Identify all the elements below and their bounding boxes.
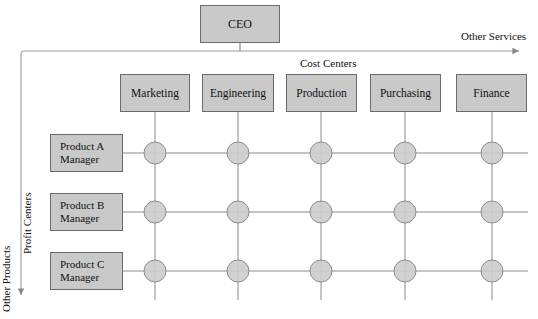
- matrix-organization-diagram: CEO Other Services Cost Centers Profit C…: [0, 0, 538, 319]
- matrix-node: [227, 260, 249, 282]
- node-label: Engineering: [210, 86, 266, 100]
- node-label: Finance: [473, 86, 509, 100]
- node-cost-center-engineering[interactable]: Engineering: [202, 74, 274, 112]
- node-label-line2: Manager: [60, 212, 104, 225]
- matrix-node: [310, 142, 332, 164]
- matrix-node: [481, 260, 503, 282]
- node-label: Marketing: [131, 86, 179, 100]
- matrix-node: [227, 201, 249, 223]
- matrix-node: [394, 142, 416, 164]
- node-label-group: Product B Manager: [60, 199, 104, 226]
- matrix-node: [227, 142, 249, 164]
- other-services-label: Other Services: [461, 30, 526, 42]
- node-profit-center-product-b[interactable]: Product B Manager: [50, 193, 123, 231]
- node-profit-center-product-c[interactable]: Product C Manager: [50, 252, 123, 290]
- node-label-line1: Product B: [60, 199, 104, 212]
- other-products-label: Other Products: [0, 246, 12, 312]
- cost-centers-header: Cost Centers: [300, 57, 357, 69]
- node-cost-center-production[interactable]: Production: [286, 74, 357, 112]
- node-label-line1: Product A: [60, 140, 104, 153]
- other-products-rail: [21, 51, 24, 295]
- node-label: Production: [296, 86, 346, 100]
- matrix-node: [144, 260, 166, 282]
- matrix-node: [481, 142, 503, 164]
- matrix-node: [310, 201, 332, 223]
- matrix-node: [394, 201, 416, 223]
- node-cost-center-purchasing[interactable]: Purchasing: [370, 74, 441, 112]
- node-ceo-label: CEO: [228, 17, 252, 32]
- node-label-line2: Manager: [60, 271, 104, 284]
- node-cost-center-finance[interactable]: Finance: [456, 74, 527, 112]
- matrix-node: [310, 260, 332, 282]
- matrix-node: [394, 260, 416, 282]
- node-label: Purchasing: [380, 86, 431, 100]
- node-label-line1: Product C: [60, 258, 104, 271]
- matrix-node: [144, 201, 166, 223]
- node-profit-center-product-a[interactable]: Product A Manager: [50, 134, 123, 172]
- node-label-group: Product C Manager: [60, 258, 104, 285]
- profit-centers-label: Profit Centers: [21, 193, 33, 254]
- node-label-group: Product A Manager: [60, 140, 104, 167]
- matrix-node: [144, 142, 166, 164]
- node-label-line2: Manager: [60, 153, 104, 166]
- node-ceo[interactable]: CEO: [200, 5, 280, 43]
- matrix-node: [481, 201, 503, 223]
- node-cost-center-marketing[interactable]: Marketing: [120, 74, 190, 112]
